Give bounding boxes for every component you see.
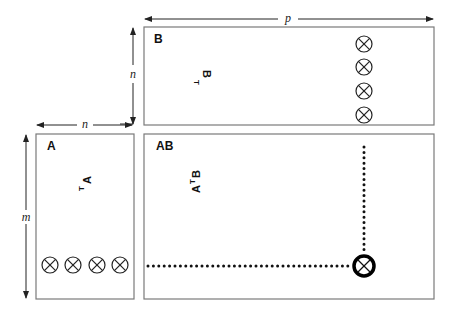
dimension-arrow-n-horizontal: n — [37, 117, 132, 131]
matrix-a-label: A — [47, 139, 56, 153]
otimes-icon — [89, 257, 105, 273]
matrix-ab-label: AB — [156, 139, 174, 153]
otimes-icon — [356, 36, 372, 52]
svg-text:A: A — [190, 185, 202, 193]
matrix-b: B B T — [144, 27, 434, 125]
svg-text:T: T — [77, 186, 86, 191]
otimes-icon — [112, 257, 128, 273]
svg-text:B: B — [201, 70, 213, 78]
matrix-b-row-annotation: B — [201, 70, 213, 78]
otimes-icon — [356, 83, 372, 99]
otimes-icon — [65, 257, 81, 273]
matrix-b-label: B — [154, 32, 163, 46]
dimension-label-p: p — [284, 11, 291, 25]
otimes-icon — [42, 257, 58, 273]
result-otimes-icon — [354, 256, 374, 276]
dimension-label-n-vertical: n — [130, 67, 136, 81]
dimension-label-n-horizontal: n — [82, 117, 88, 131]
otimes-icon — [356, 107, 372, 123]
svg-text:B: B — [190, 170, 202, 178]
dimension-arrow-m: m — [22, 135, 31, 298]
svg-text:A: A — [81, 176, 93, 184]
dimension-arrow-n-vertical: n — [120, 28, 136, 124]
dimension-arrow-p: p — [145, 11, 433, 25]
svg-text:T: T — [192, 80, 201, 85]
otimes-icon — [356, 59, 372, 75]
svg-text:T: T — [188, 179, 197, 184]
dimension-label-m: m — [22, 210, 31, 224]
matrix-multiplication-diagram: p n n m B B T A — [0, 0, 456, 316]
matrix-a: A A T — [36, 134, 134, 299]
matrix-ab: AB A T B — [144, 134, 434, 299]
